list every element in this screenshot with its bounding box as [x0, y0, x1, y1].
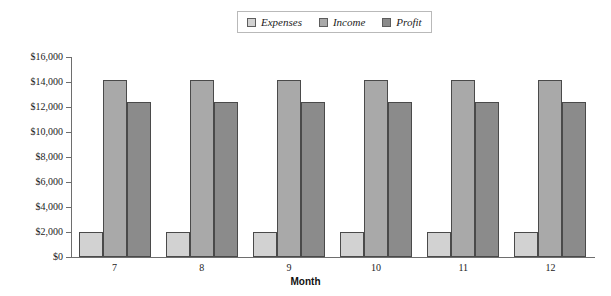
bar-profit-9[interactable]: [301, 102, 325, 257]
y-axis-tick-label: $6,000: [36, 177, 64, 187]
x-axis-tick-label: 9: [286, 263, 291, 273]
y-axis-tick-label: $16,000: [31, 52, 64, 62]
bar-expenses-8[interactable]: [166, 232, 190, 257]
y-axis-tick-label: $12,000: [31, 102, 64, 112]
bar-profit-7[interactable]: [127, 102, 151, 257]
x-axis-tick-label: 10: [371, 263, 381, 273]
bar-group: [514, 57, 586, 257]
legend-label-expenses: Expenses: [261, 17, 302, 28]
bar-profit-11[interactable]: [475, 102, 499, 257]
bar-expenses-7[interactable]: [79, 232, 103, 257]
legend-item-profit[interactable]: Profit: [382, 17, 421, 28]
bar-expenses-10[interactable]: [340, 232, 364, 257]
x-axis-line: [71, 257, 595, 258]
bar-group: [253, 57, 325, 257]
bar-profit-12[interactable]: [562, 102, 586, 257]
bar-income-9[interactable]: [277, 80, 301, 258]
bar-group: [166, 57, 238, 257]
bar-group: [427, 57, 499, 257]
legend-label-income: Income: [333, 17, 365, 28]
plot-area: [71, 57, 594, 257]
y-axis: $0$2,000$4,000$6,000$8,000$10,000$12,000…: [0, 57, 71, 258]
x-axis-tick-label: 7: [112, 263, 117, 273]
y-axis-tick-label: $8,000: [36, 152, 64, 162]
legend-item-income[interactable]: Income: [319, 17, 365, 28]
bar-expenses-9[interactable]: [253, 232, 277, 257]
bar-profit-10[interactable]: [388, 102, 412, 257]
chart-legend: Expenses Income Profit: [237, 11, 432, 33]
bar-income-12[interactable]: [538, 80, 562, 258]
y-axis-tick-label: $10,000: [31, 127, 64, 137]
bar-income-11[interactable]: [451, 80, 475, 258]
bar-chart: Expenses Income Profit $0$2,000$4,000$6,…: [0, 0, 611, 296]
bar-income-8[interactable]: [190, 80, 214, 258]
x-axis-tick-label: 8: [199, 263, 204, 273]
bar-expenses-11[interactable]: [427, 232, 451, 257]
bar-expenses-12[interactable]: [514, 232, 538, 257]
bar-income-7[interactable]: [103, 80, 127, 258]
y-axis-tick-label: $14,000: [31, 77, 64, 87]
legend-label-profit: Profit: [396, 17, 421, 28]
bar-income-10[interactable]: [364, 80, 388, 258]
legend-swatch-profit: [382, 18, 391, 27]
bar-profit-8[interactable]: [214, 102, 238, 257]
x-axis-tick-label: 11: [458, 263, 468, 273]
legend-item-expenses[interactable]: Expenses: [247, 17, 302, 28]
y-axis-tick-label: $4,000: [36, 202, 64, 212]
x-axis-title: Month: [0, 277, 611, 287]
y-axis-tick-label: $0: [53, 252, 63, 262]
x-axis-tick-label: 12: [545, 263, 555, 273]
legend-swatch-income: [319, 18, 328, 27]
bar-group: [340, 57, 412, 257]
bar-group: [79, 57, 151, 257]
legend-swatch-expenses: [247, 18, 256, 27]
y-axis-tick-label: $2,000: [36, 227, 64, 237]
